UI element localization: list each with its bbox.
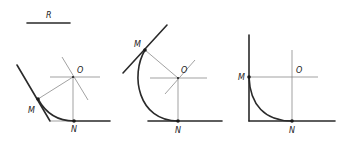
point-n: [72, 119, 76, 123]
label-o: O: [181, 66, 187, 75]
diagram-canvas: R O M N O M N: [0, 0, 347, 142]
construction-line-diagonal: [62, 57, 88, 100]
figure-acute-angle: O M N: [17, 57, 110, 134]
label-n: N: [71, 125, 77, 134]
radius-om: [38, 77, 73, 99]
label-m: M: [238, 73, 245, 82]
point-m: [247, 75, 251, 79]
radius-om: [145, 50, 178, 78]
figure-right-angle: O M N: [238, 35, 335, 135]
point-m: [143, 48, 147, 52]
label-o: O: [296, 66, 302, 75]
label-n: N: [175, 126, 181, 135]
tangent-arc: [249, 77, 292, 121]
point-m: [36, 97, 40, 101]
construction-line-diagonal: [165, 60, 195, 94]
point-n: [290, 119, 294, 123]
point-o: [177, 77, 179, 79]
label-m: M: [28, 106, 35, 115]
label-n: N: [289, 126, 295, 135]
point-o: [72, 76, 74, 78]
point-n: [176, 119, 180, 123]
figure-obtuse-angle: O M N: [123, 25, 222, 135]
radius-reference: R: [27, 11, 70, 23]
label-m: M: [134, 40, 141, 49]
label-o: O: [77, 66, 83, 75]
radius-label: R: [46, 11, 52, 20]
